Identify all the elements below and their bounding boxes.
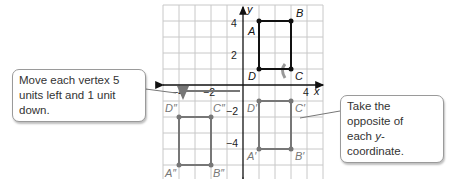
svg-text:C: C <box>295 70 303 82</box>
reflection-callout-line1: Take the opposite of <box>347 100 403 127</box>
svg-text:−2: −2 <box>226 105 238 117</box>
reflection-callout: Take the opposite of each y-coordinate. <box>340 95 444 163</box>
svg-text:B″: B″ <box>213 167 225 179</box>
translation-callout: Move each vertex 5 units left and 1 unit… <box>12 69 146 122</box>
svg-text:A: A <box>247 25 255 37</box>
svg-text:4: 4 <box>231 17 237 29</box>
svg-text:A′: A′ <box>246 150 257 162</box>
svg-text:B′: B′ <box>295 150 305 162</box>
svg-text:B: B <box>296 7 303 19</box>
svg-text:4: 4 <box>303 86 309 98</box>
svg-text:D″: D″ <box>165 102 178 114</box>
svg-text:D′: D′ <box>247 102 258 114</box>
svg-text:x: x <box>313 85 320 97</box>
svg-text:−4: −4 <box>226 137 238 149</box>
reflection-arrow <box>283 64 286 78</box>
svg-text:C′: C′ <box>295 102 306 114</box>
svg-text:D: D <box>248 70 256 82</box>
svg-text:2: 2 <box>231 49 237 61</box>
svg-text:A″: A″ <box>164 167 177 179</box>
svg-text:C″: C″ <box>213 102 226 114</box>
reflection-callout-pre: each <box>347 130 375 142</box>
